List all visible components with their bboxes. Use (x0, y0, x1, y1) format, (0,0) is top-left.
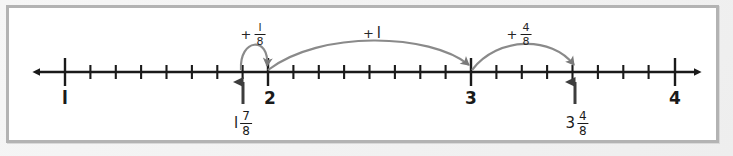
jump-label-one-eighth: + l 8 (241, 22, 266, 47)
major-label-2: 2 (264, 90, 276, 107)
mixed-whole: l (234, 116, 238, 131)
fraction-one-eighth: l 8 (254, 22, 265, 47)
major-label-1: l (62, 90, 68, 107)
jump-label-one-whole: + l (363, 26, 381, 41)
fraction-denominator: 8 (520, 34, 531, 47)
mixed-whole: 3 (565, 116, 575, 131)
number-line-graphic (0, 0, 733, 156)
mixed-fraction: 4 8 (577, 110, 589, 137)
fraction-denominator: 8 (577, 123, 589, 137)
fraction-numerator: 4 (520, 22, 531, 34)
fraction-denominator: 8 (240, 123, 252, 137)
fraction-four-eighths: 4 8 (520, 22, 531, 47)
plus-sign: + (507, 28, 518, 41)
plus-sign: + (241, 28, 252, 41)
fraction-numerator: 7 (240, 110, 252, 123)
point-arrows-group (243, 82, 575, 104)
point-label-start: l 7 8 (234, 110, 252, 137)
whole-number: l (377, 26, 381, 41)
mixed-fraction: 7 8 (240, 110, 252, 137)
fraction-denominator: 8 (254, 34, 265, 47)
point-label-end: 3 4 8 (565, 110, 588, 137)
jump-label-four-eighths: + 4 8 (507, 22, 532, 47)
fraction-numerator: 4 (577, 110, 589, 123)
major-label-4: 4 (669, 90, 681, 107)
number-line-figure: l 2 3 4 + l 8 + l + 4 8 l 7 8 3 4 8 (0, 0, 733, 156)
jump-arc-one-eighth (241, 45, 267, 70)
fraction-numerator: l (256, 22, 263, 34)
plus-sign: + (363, 27, 374, 40)
major-label-3: 3 (465, 90, 477, 107)
